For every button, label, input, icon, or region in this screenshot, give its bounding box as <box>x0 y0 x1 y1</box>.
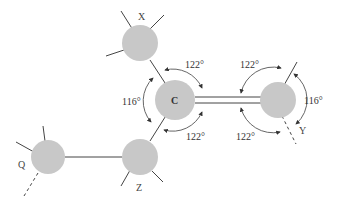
atom-label-c: C <box>171 95 178 106</box>
angle-label-c-left: 116° <box>122 96 141 107</box>
bond-x-c <box>150 60 167 86</box>
atom-label-y: Y <box>299 125 306 136</box>
bond-c-z <box>150 114 167 141</box>
angle-label-y-right: 116° <box>304 95 323 106</box>
atom-label-z: Z <box>136 182 142 193</box>
angle-label-y-bottom: 122° <box>236 131 255 142</box>
atom-label-x: X <box>138 11 146 22</box>
angle-label-c-top: 122° <box>185 59 204 70</box>
atom-y <box>260 82 296 118</box>
atom-x <box>122 25 158 61</box>
molecule-diagram: X C Y Q Z 122° 116° 122° 122° 116° 122° <box>0 0 340 209</box>
angle-label-c-bottom: 122° <box>186 131 205 142</box>
atom-label-q: Q <box>18 159 26 170</box>
angle-label-y-top: 122° <box>240 59 259 70</box>
atom-z <box>122 139 158 175</box>
atom-q <box>31 140 65 174</box>
